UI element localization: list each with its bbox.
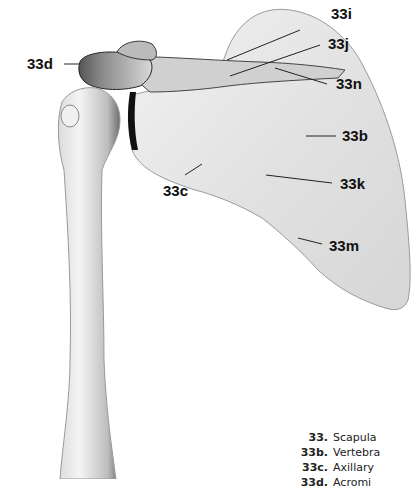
label-33i: 33i <box>331 6 352 21</box>
legend-row: 33d.Acromi <box>288 475 380 490</box>
greater-tubercle <box>61 105 79 127</box>
label-33b: 33b <box>342 128 368 143</box>
label-33d: 33d <box>27 56 53 71</box>
label-33n: 33n <box>336 76 362 91</box>
label-33j: 33j <box>328 36 349 51</box>
humerus <box>58 88 120 479</box>
label-33c: 33c <box>163 183 188 198</box>
legend: 33.Scapula 33b.Vertebra 33c.Axillary 33d… <box>288 430 380 490</box>
label-33k: 33k <box>340 176 365 191</box>
label-33m: 33m <box>329 238 359 253</box>
legend-row: 33c.Axillary <box>288 460 380 475</box>
legend-row: 33b.Vertebra <box>288 445 380 460</box>
legend-row: 33.Scapula <box>288 430 380 445</box>
scapula-body <box>130 9 410 309</box>
